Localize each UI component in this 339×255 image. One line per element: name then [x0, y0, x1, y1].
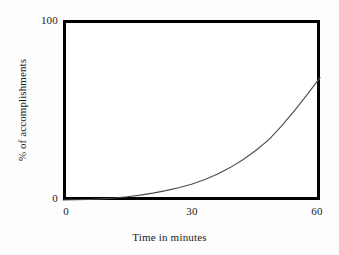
y-axis-tick-100: 100: [0, 15, 58, 26]
chart-figure: 100 0 0 30 60 % of accomplishments Time …: [0, 0, 339, 255]
x-axis-title: Time in minutes: [0, 231, 339, 243]
x-axis-tick-0: 0: [46, 205, 86, 217]
x-axis-tick-60: 60: [297, 205, 337, 217]
series-line-accomplishments: [63, 78, 320, 200]
x-axis-tick-30: 30: [172, 205, 212, 217]
y-axis-tick-0: 0: [0, 193, 58, 204]
y-axis-title: % of accomplishments: [16, 59, 28, 161]
line-chart-plot: [63, 20, 320, 200]
